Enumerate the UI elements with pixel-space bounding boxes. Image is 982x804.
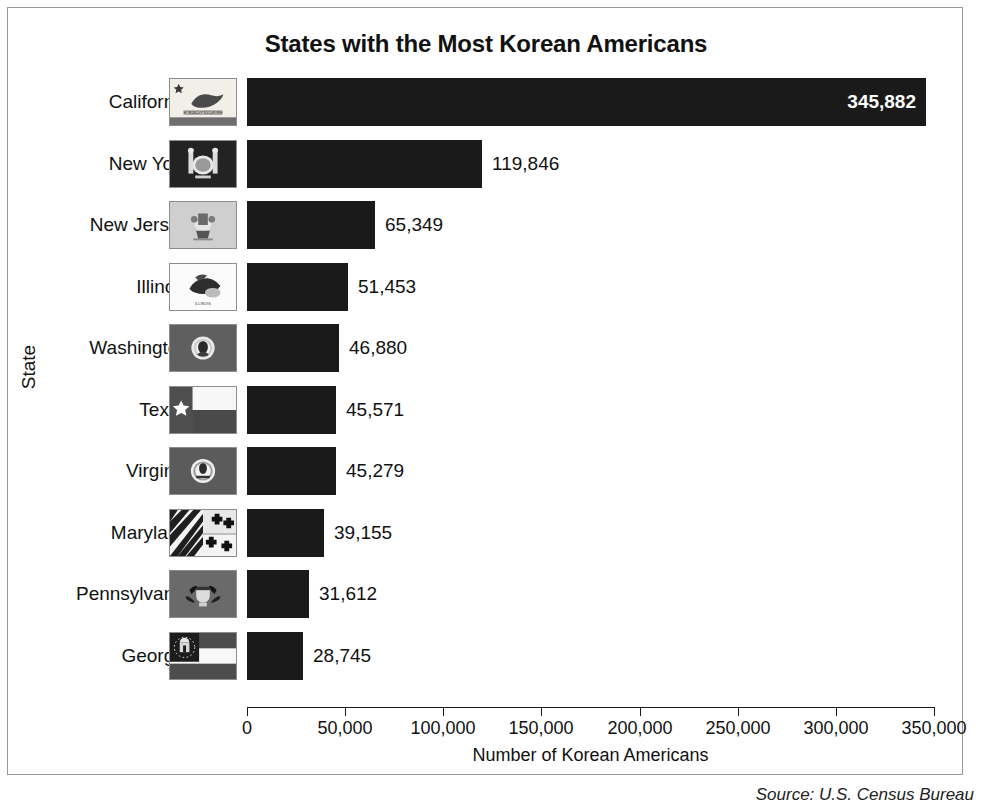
plot-area: CaliforniaCALIFORNIA REPUBLIC345,882New … [239, 78, 926, 695]
chart-row: Maryland39,155 [239, 509, 926, 557]
x-axis-tick [345, 707, 346, 716]
bar-value-label: 39,155 [334, 509, 392, 557]
chart-row: Washington46,880 [239, 324, 926, 372]
x-axis-tick [836, 707, 837, 716]
bar [247, 632, 303, 680]
x-axis-tick [541, 707, 542, 716]
chart-row: IllinoisILLINOIS51,453 [239, 263, 926, 311]
pennsylvania-flag [169, 570, 237, 618]
state-label: Texas [0, 386, 189, 434]
bar [247, 447, 336, 495]
x-axis-tick-label: 200,000 [607, 718, 672, 739]
svg-text:ILLINOIS: ILLINOIS [195, 302, 211, 306]
x-axis-tick-label: 50,000 [317, 718, 372, 739]
state-label: Pennsylvania [0, 570, 189, 618]
bar [247, 263, 348, 311]
x-axis-tick [738, 707, 739, 716]
state-label: Maryland [0, 509, 189, 557]
chart-title: States with the Most Korean Americans [8, 30, 964, 58]
bar-value-label: 31,612 [319, 570, 377, 618]
state-label: Washington [0, 324, 189, 372]
bar-value-label: 28,745 [313, 632, 371, 680]
state-label: Virginia [0, 447, 189, 495]
bar-value-label: 65,349 [385, 201, 443, 249]
chart-row: New Jersey65,349 [239, 201, 926, 249]
x-axis-title: Number of Korean Americans [247, 745, 934, 766]
x-axis-tick-label: 150,000 [508, 718, 573, 739]
x-axis-tick-label: 100,000 [410, 718, 475, 739]
illinois-flag: ILLINOIS [169, 263, 237, 311]
maryland-flag [169, 509, 237, 557]
x-axis-tick [934, 707, 935, 716]
x-axis-tick-label: 300,000 [803, 718, 868, 739]
state-label: New York [0, 140, 189, 188]
chart-row: CaliforniaCALIFORNIA REPUBLIC345,882 [239, 78, 926, 126]
new-jersey-flag [169, 201, 237, 249]
california-flag: CALIFORNIA REPUBLIC [169, 78, 237, 126]
x-axis-tick-label: 0 [242, 718, 252, 739]
new-york-flag [169, 140, 237, 188]
bar [247, 324, 339, 372]
georgia-flag [169, 632, 237, 680]
bar-value-label: 45,279 [346, 447, 404, 495]
chart-row: Pennsylvania31,612 [239, 570, 926, 618]
washington-flag [169, 324, 237, 372]
x-axis-tick-label: 350,000 [901, 718, 966, 739]
x-axis-tick [640, 707, 641, 716]
bar [247, 140, 482, 188]
state-label: California [0, 78, 189, 126]
chart-row: Virginia45,279 [239, 447, 926, 495]
bar-value-label: 46,880 [349, 324, 407, 372]
bar-value-label: 119,846 [492, 140, 559, 188]
source-note: Source: U.S. Census Bureau [8, 785, 982, 804]
bar: 345,882 [247, 78, 926, 126]
bar [247, 570, 309, 618]
x-axis-tick-label: 250,000 [705, 718, 770, 739]
texas-flag [169, 386, 237, 434]
bar [247, 509, 324, 557]
bar [247, 386, 336, 434]
chart-row: Texas45,571 [239, 386, 926, 434]
bar-value-label: 45,571 [346, 386, 404, 434]
svg-text:CALIFORNIA REPUBLIC: CALIFORNIA REPUBLIC [183, 111, 223, 115]
chart-figure: States with the Most Korean Americans St… [7, 7, 963, 775]
state-label: Georgia [0, 632, 189, 680]
x-axis-line [247, 707, 934, 708]
chart-row: New York119,846 [239, 140, 926, 188]
state-label: New Jersey [0, 201, 189, 249]
x-axis-tick [247, 707, 248, 716]
bar-value-label: 345,882 [847, 78, 916, 126]
virginia-flag [169, 447, 237, 495]
state-label: Illinois [0, 263, 189, 311]
bar-value-label: 51,453 [358, 263, 416, 311]
chart-row: Georgia28,745 [239, 632, 926, 680]
bar [247, 201, 375, 249]
x-axis-tick [443, 707, 444, 716]
